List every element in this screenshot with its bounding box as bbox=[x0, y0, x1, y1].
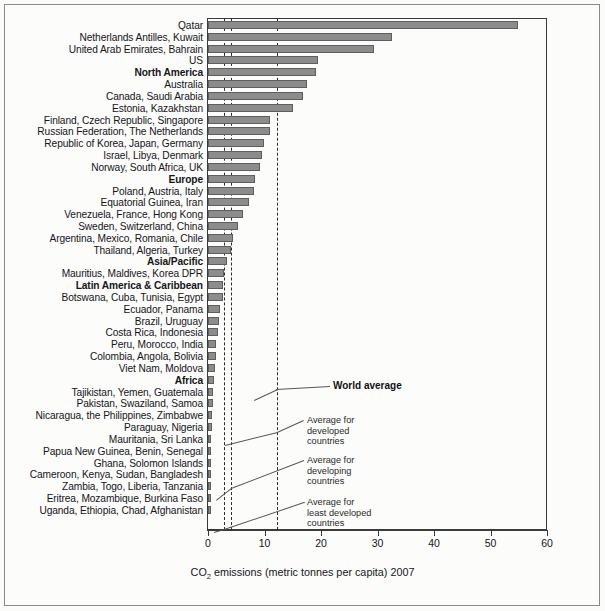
country-row: Poland, Austria, Italy bbox=[0, 185, 605, 197]
bar bbox=[208, 423, 212, 431]
country-row: Zambia, Togo, Liberia, Tanzania bbox=[0, 480, 605, 492]
row-label: Australia bbox=[164, 79, 203, 90]
row-label: Paraguay, Nigeria bbox=[124, 422, 203, 433]
row-label: Eritrea, Mozambique, Burkina Faso bbox=[47, 493, 203, 504]
row-label: Ecuador, Panama bbox=[124, 303, 204, 314]
bar bbox=[208, 340, 216, 348]
x-tick-label: 20 bbox=[315, 537, 327, 549]
bar bbox=[208, 198, 249, 206]
row-label: Papua New Guinea, Benin, Senegal bbox=[43, 445, 203, 456]
chart-page: QatarNetherlands Antilles, KuwaitUnited … bbox=[0, 0, 605, 611]
region-row: Asia/Pacific bbox=[0, 256, 605, 268]
country-row: Costa Rica, Indonesia bbox=[0, 327, 605, 339]
row-label: Finland, Czech Republic, Singapore bbox=[44, 114, 203, 125]
country-row: Norway, South Africa, UK bbox=[0, 161, 605, 173]
bar bbox=[208, 80, 307, 88]
bar bbox=[208, 352, 216, 360]
row-label: Costa Rica, Indonesia bbox=[105, 327, 203, 338]
region-row: Latin America & Caribbean bbox=[0, 279, 605, 291]
x-tick-label: 40 bbox=[428, 537, 440, 549]
bar bbox=[208, 257, 227, 265]
row-label: Russian Federation, The Netherlands bbox=[37, 126, 203, 137]
row-label: Viet Nam, Moldova bbox=[119, 362, 203, 373]
country-row: Papua New Guinea, Benin, Senegal bbox=[0, 445, 605, 457]
row-label: Mauritania, Sri Lanka bbox=[109, 433, 203, 444]
country-row: Australia bbox=[0, 78, 605, 90]
bar bbox=[208, 411, 212, 419]
bar bbox=[208, 56, 318, 64]
x-tick bbox=[434, 530, 435, 536]
bar bbox=[208, 305, 220, 313]
country-row: Argentina, Mexico, Romania, Chile bbox=[0, 232, 605, 244]
bar bbox=[208, 104, 293, 112]
country-row: Israel, Libya, Denmark bbox=[0, 149, 605, 161]
x-tick bbox=[547, 530, 548, 536]
row-label: Netherlands Antilles, Kuwait bbox=[80, 31, 203, 42]
x-axis-title: CO2 emissions (metric tonnes per capita)… bbox=[0, 566, 605, 581]
co2-emissions-bar-chart: QatarNetherlands Antilles, KuwaitUnited … bbox=[0, 0, 605, 611]
region-row: North America bbox=[0, 66, 605, 78]
country-row: Russian Federation, The Netherlands bbox=[0, 125, 605, 137]
country-row: Mauritania, Sri Lanka bbox=[0, 433, 605, 445]
country-row: Venezuela, France, Hong Kong bbox=[0, 208, 605, 220]
row-label: Pakistan, Swaziland, Samoa bbox=[76, 398, 203, 409]
row-label: Nicaragua, the Philippines, Zimbabwe bbox=[36, 410, 203, 421]
bar bbox=[208, 470, 211, 478]
row-label: Peru, Morocco, India bbox=[111, 339, 203, 350]
bar bbox=[208, 482, 211, 490]
row-label: Argentina, Mexico, Romania, Chile bbox=[49, 232, 203, 243]
row-label: Botswana, Cuba, Tunisia, Egypt bbox=[62, 291, 203, 302]
country-row: Netherlands Antilles, Kuwait bbox=[0, 31, 605, 43]
row-label: Uganda, Ethiopia, Chad, Afghanistan bbox=[39, 504, 203, 515]
x-tick bbox=[265, 530, 266, 536]
row-label: Zambia, Togo, Liberia, Tanzania bbox=[62, 481, 203, 492]
region-row: Europe bbox=[0, 173, 605, 185]
x-tick-label: 60 bbox=[541, 537, 553, 549]
row-label: Asia/Pacific bbox=[147, 256, 203, 267]
bar bbox=[208, 33, 392, 41]
row-label: Europe bbox=[169, 173, 204, 184]
annotation-developed-countries: Average for developed countries bbox=[307, 415, 354, 447]
x-tick bbox=[208, 530, 209, 536]
bar bbox=[208, 151, 262, 159]
x-tick bbox=[491, 530, 492, 536]
row-label: Equatorial Guinea, Iran bbox=[101, 197, 203, 208]
bar-rows: QatarNetherlands Antilles, KuwaitUnited … bbox=[0, 19, 605, 516]
bar bbox=[208, 364, 215, 372]
country-row: Colombia, Angola, Bolivia bbox=[0, 350, 605, 362]
x-tick-label: 30 bbox=[372, 537, 384, 549]
country-row: Equatorial Guinea, Iran bbox=[0, 196, 605, 208]
row-label: US bbox=[189, 55, 203, 66]
country-row: Viet Nam, Moldova bbox=[0, 362, 605, 374]
row-label: Qatar bbox=[178, 19, 203, 30]
x-tick bbox=[378, 530, 379, 536]
bar bbox=[208, 506, 211, 514]
bar bbox=[208, 293, 223, 301]
country-row: Mauritius, Maldives, Korea DPR bbox=[0, 267, 605, 279]
country-row: US bbox=[0, 54, 605, 66]
annotation-world-average: World average bbox=[333, 381, 402, 392]
x-tick-label: 0 bbox=[205, 537, 211, 549]
row-label: North America bbox=[134, 67, 203, 78]
bar bbox=[208, 175, 255, 183]
country-row: Peru, Morocco, India bbox=[0, 338, 605, 350]
bar bbox=[208, 399, 213, 407]
row-label: Israel, Libya, Denmark bbox=[103, 150, 203, 161]
country-row: Canada, Saudi Arabia bbox=[0, 90, 605, 102]
bar bbox=[208, 187, 254, 195]
annotation-developing-countries: Average for developing countries bbox=[307, 455, 354, 487]
row-label: Poland, Austria, Italy bbox=[112, 185, 203, 196]
country-row: United Arab Emirates, Bahrain bbox=[0, 43, 605, 55]
country-row: Finland, Czech Republic, Singapore bbox=[0, 114, 605, 126]
row-label: Africa bbox=[175, 374, 203, 385]
bar bbox=[208, 328, 218, 336]
row-label: Brazil, Uruguay bbox=[135, 315, 203, 326]
bar bbox=[208, 246, 231, 254]
bar bbox=[208, 127, 270, 135]
row-label: Thailand, Algeria, Turkey bbox=[93, 244, 203, 255]
row-label: Mauritius, Maldives, Korea DPR bbox=[62, 268, 203, 279]
row-label: Republic of Korea, Japan, Germany bbox=[44, 138, 203, 149]
row-label: Venezuela, France, Hong Kong bbox=[64, 209, 203, 220]
row-label: Norway, South Africa, UK bbox=[91, 161, 203, 172]
bar bbox=[208, 494, 211, 502]
